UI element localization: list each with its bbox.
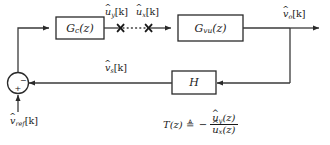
controller-label-base: G <box>66 22 75 35</box>
signal-index: [k] <box>115 6 128 17</box>
sensor-block-label: H <box>172 71 216 94</box>
equation-denominator: ^ux(z) <box>210 124 237 136</box>
sensor-label-base: H <box>189 76 199 89</box>
equation-minus-sign: − <box>199 119 207 130</box>
signal-index: [k] <box>25 115 38 126</box>
plant-label-sub: vu <box>203 26 212 35</box>
signal-sub: ref <box>15 120 24 128</box>
hat-accent-icon: ^ <box>212 120 219 129</box>
signal-sub: s <box>110 67 113 75</box>
signal-label-sensed: ^vs[k] <box>105 63 127 73</box>
plant-block-label: Gvu(z) <box>178 15 243 41</box>
controller-label-sub: c <box>75 26 79 35</box>
hat-accent-icon: ^ <box>9 112 16 120</box>
hat-accent-icon: ^ <box>104 59 111 67</box>
transfer-function-equation: T(z) ≜ − ^uy(z) ^ux(z) <box>163 113 238 135</box>
signal-label-reference: ^vref[k] <box>10 116 38 126</box>
signal-index: [k] <box>114 62 127 73</box>
signal-sub: y <box>111 11 115 19</box>
summing-sign-reference: + <box>15 85 22 93</box>
signal-label-plant-input: ^ux[k] <box>136 7 159 17</box>
summing-sign-feedback: − <box>20 77 27 85</box>
equation-lhs-base: T <box>163 119 170 130</box>
hat-accent-icon: ^ <box>136 3 143 11</box>
denominator-sub: x <box>219 128 223 136</box>
block-diagram: Gc(z) Gvu(z) H ^uy[k] ^ux[k] ^vo[k] ^vs[… <box>0 0 330 145</box>
signal-index: [k] <box>292 8 305 19</box>
signal-sub: o <box>288 13 292 21</box>
plant-label-base: G <box>194 22 203 35</box>
denominator-arg: (z) <box>222 124 235 135</box>
hat-accent-icon: ^ <box>212 109 219 118</box>
signal-sub: x <box>142 11 146 19</box>
equation-fraction: ^uy(z) ^ux(z) <box>210 113 237 135</box>
wire-sum-to-controller <box>18 28 49 78</box>
signal-index: [k] <box>146 6 159 17</box>
hat-accent-icon: ^ <box>282 5 289 13</box>
equation-lhs-arg: (z) <box>170 119 183 130</box>
numerator-sub: y <box>219 117 223 125</box>
controller-block-label: Gc(z) <box>56 17 104 39</box>
signal-label-controller-output: ^uy[k] <box>105 7 128 17</box>
controller-label-arg: (z) <box>79 22 93 35</box>
hat-accent-icon: ^ <box>105 3 112 11</box>
equation-defined-as-symbol: ≜ <box>186 119 194 130</box>
numerator-arg: (z) <box>222 112 235 123</box>
plant-label-arg: (z) <box>212 22 226 35</box>
signal-label-plant-output: ^vo[k] <box>283 9 305 19</box>
